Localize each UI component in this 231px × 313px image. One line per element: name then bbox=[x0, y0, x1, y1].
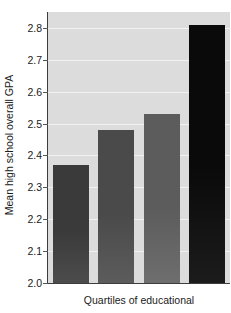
y-tick-mark bbox=[43, 60, 48, 61]
y-tick-label: 2.6 bbox=[27, 86, 42, 98]
bar bbox=[98, 130, 134, 283]
y-tick-label: 2.0 bbox=[27, 277, 42, 289]
bar bbox=[189, 25, 225, 283]
y-tick-label: 2.4 bbox=[27, 149, 42, 161]
bar bbox=[53, 165, 89, 283]
y-tick-mark bbox=[43, 251, 48, 252]
y-tick-mark bbox=[43, 187, 48, 188]
y-axis-title-text: Mean high school overall GPA bbox=[3, 75, 15, 215]
plot-area bbox=[48, 12, 230, 283]
bar bbox=[144, 114, 180, 283]
x-axis-title: Quartiles of educational bbox=[48, 294, 230, 306]
y-tick-mark bbox=[43, 283, 48, 284]
x-axis-line bbox=[47, 283, 230, 284]
y-tick-label: 2.2 bbox=[27, 213, 42, 225]
y-tick-mark bbox=[43, 155, 48, 156]
y-tick-mark bbox=[43, 92, 48, 93]
y-tick-label: 2.8 bbox=[27, 22, 42, 34]
bar-chart-figure: Mean high school overall GPA 2.02.12.22.… bbox=[0, 0, 231, 313]
y-tick-mark bbox=[43, 28, 48, 29]
y-tick-mark bbox=[43, 219, 48, 220]
y-tick-label: 2.7 bbox=[27, 54, 42, 66]
y-axis-tick-labels: 2.02.12.22.32.42.52.62.72.8 bbox=[16, 0, 42, 313]
y-tick-label: 2.5 bbox=[27, 118, 42, 130]
y-tick-mark bbox=[43, 124, 48, 125]
y-tick-label: 2.3 bbox=[27, 181, 42, 193]
y-tick-label: 2.1 bbox=[27, 245, 42, 257]
